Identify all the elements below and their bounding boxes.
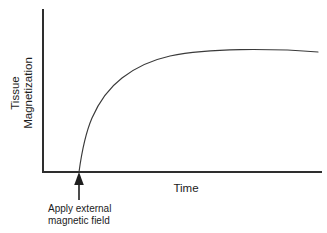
y-axis-label-line-1: Tissue [9, 76, 21, 109]
x-axis-label: Time [173, 182, 198, 194]
annotation-line-1: Apply external [48, 203, 111, 214]
up-arrow-icon [74, 172, 84, 185]
annotation-line-2: magnetic field [48, 215, 110, 226]
y-axis-label-line-2: Magnetization [22, 57, 34, 129]
magnetization-figure: Time Tissue Magnetization Apply external… [0, 0, 327, 233]
magnetization-curve [79, 50, 318, 172]
plot-canvas: Time Tissue Magnetization Apply external… [0, 0, 327, 233]
